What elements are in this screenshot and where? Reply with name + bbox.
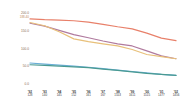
x-tick-sublabel: 152 [66,94,82,98]
x-tick-group: '95152 [66,90,82,98]
x-tick-sublabel: 1515 [139,94,155,98]
x-tick-group: '991611 [124,90,140,98]
x-tick-sublabel: 161 [80,94,96,98]
x-tick-group: '97167 [95,90,111,98]
x-tick-sublabel: 1477 [153,94,169,98]
x-tick-sublabel: 1611 [124,94,140,98]
x-tick-group: '001515 [139,90,155,98]
x-tick-group: '92128 [22,90,38,98]
x-tick-sublabel: 145 [51,94,67,98]
x-tick-sublabel: 128 [22,94,38,98]
x-tick-sublabel: 1456 [168,94,180,98]
x-tick-group: '011477 [153,90,169,98]
x-tick-group: '981553 [110,90,126,98]
x-tick-sublabel: 167 [95,94,111,98]
x-axis: '92128'93140'94145'95152'96161'97167'981… [0,0,180,111]
x-tick-group: '96161 [80,90,96,98]
x-tick-group: '021456 [168,90,180,98]
line-chart: 200.0188.40150.0100.050.00.0 '92128'9314… [0,0,180,111]
x-tick-sublabel: 1553 [110,94,126,98]
x-tick-group: '94145 [51,90,67,98]
x-tick-sublabel: 140 [37,94,53,98]
x-tick-group: '93140 [37,90,53,98]
